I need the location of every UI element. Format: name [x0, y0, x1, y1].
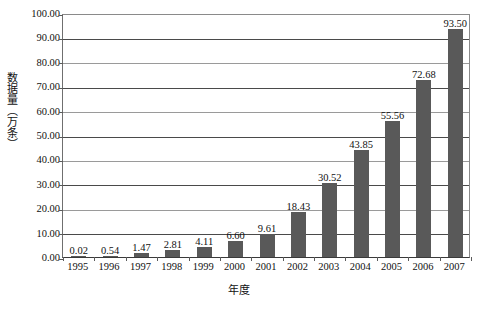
bar [385, 121, 400, 257]
plot-area: 0.020.541.472.814.116.609.6118.4330.5243… [62, 14, 470, 258]
y-axis-tick-label: 10.00 [14, 229, 60, 239]
y-axis-tick-mark [59, 15, 63, 16]
y-axis-tick-mark [59, 161, 63, 162]
y-axis-tick-labels: 100.0090.0080.0070.0060.0050.0040.0030.0… [12, 0, 60, 311]
y-axis-tick-label: 60.00 [14, 107, 60, 117]
bar [103, 256, 118, 257]
bar [291, 212, 306, 257]
bar-value-label: 72.68 [401, 69, 447, 80]
x-axis-tick-label: 2007 [434, 261, 474, 273]
bar-chart-figure: 数据量（万条） 100.0090.0080.0070.0060.0050.004… [0, 0, 477, 311]
bar [134, 253, 149, 257]
y-axis-tick-label: 0.00 [14, 253, 60, 263]
gridline [63, 39, 469, 40]
bar [165, 250, 180, 257]
y-axis-tick-label: 30.00 [14, 180, 60, 190]
y-axis-tick-label: 90.00 [14, 33, 60, 43]
bar-value-label: 30.52 [307, 172, 353, 183]
y-axis-tick-mark [59, 137, 63, 138]
bar [322, 183, 337, 257]
y-axis-tick-label: 20.00 [14, 204, 60, 214]
y-axis-tick-mark [59, 210, 63, 211]
y-axis-tick-mark [59, 63, 63, 64]
y-axis-tick-mark [59, 234, 63, 235]
y-axis-tick-label: 40.00 [14, 155, 60, 165]
x-axis-tick-labels: 1995199619971998199920002001200220032004… [62, 261, 470, 277]
y-axis-tick-label: 70.00 [14, 82, 60, 92]
bar [260, 234, 275, 257]
figure-caption [0, 301, 477, 311]
x-axis-title: 年度 [0, 281, 477, 297]
bar-value-label: 55.56 [370, 110, 416, 121]
bar-value-label: 9.61 [244, 223, 290, 234]
bar [71, 256, 86, 257]
bar [448, 29, 463, 257]
gridline [63, 161, 469, 162]
gridline [63, 137, 469, 138]
y-axis-tick-label: 100.00 [14, 9, 60, 19]
gridline [63, 63, 469, 64]
y-axis-tick-mark [59, 185, 63, 186]
bar [354, 150, 369, 257]
y-axis-tick-label: 50.00 [14, 131, 60, 141]
y-axis-tick-mark [59, 88, 63, 89]
bar-value-label: 18.43 [275, 201, 321, 212]
gridline [63, 88, 469, 89]
y-axis-tick-label: 80.00 [14, 58, 60, 68]
bar [228, 241, 243, 257]
y-axis-tick-mark [59, 39, 63, 40]
gridline [63, 210, 469, 211]
y-axis-tick-mark [59, 112, 63, 113]
bar-value-label: 93.50 [432, 18, 477, 29]
bar [416, 80, 431, 257]
gridline [63, 185, 469, 186]
bar [197, 247, 212, 257]
bar-value-label: 43.85 [338, 139, 384, 150]
